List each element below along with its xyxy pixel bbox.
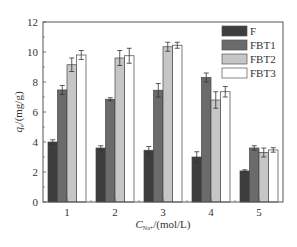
y-tick-label: 2 [33,166,39,178]
y-tick-label: 4 [33,136,39,148]
bar-fbt2-5 [259,153,269,203]
legend-swatch-f [222,26,247,36]
bar-fbt1-5 [250,148,260,202]
bar-fbt1-4 [202,78,212,203]
bar-fbt3-1 [77,55,87,202]
x-tick-label: 5 [256,206,262,218]
legend-label-fbt3: FBT3 [250,67,276,79]
y-tick-label: 12 [27,16,38,28]
y-axis-title: qe/(mg/g) [12,91,25,133]
bar-f-2 [96,148,106,202]
legend-label-fbt1: FBT1 [250,39,276,51]
x-tick-label: 3 [160,206,166,218]
legend-swatch-fbt2 [222,54,247,64]
legend-swatch-fbt1 [222,40,247,50]
bar-fbt2-2 [115,58,125,202]
bar-chart: 024681012 12345 CNa+/(mol/L) qe/(mg/g) F… [0,0,297,247]
bar-fbt1-3 [154,90,164,202]
x-axis-title: CNa+/(mol/L) [135,218,190,231]
bar-fbt3-5 [269,150,279,202]
x-tick-label: 4 [208,206,214,218]
bar-fbt1-2 [106,99,116,202]
bar-f-4 [192,157,202,202]
legend-label-f: F [250,25,256,37]
x-tick-label: 1 [64,206,70,218]
bar-fbt2-1 [67,65,77,202]
bar-f-5 [240,171,250,202]
bar-f-3 [144,150,154,202]
y-tick-label: 10 [27,46,39,58]
legend-swatch-fbt3 [222,68,247,78]
bar-fbt3-3 [173,45,183,202]
bar-fbt3-4 [221,92,231,202]
y-tick-label: 0 [33,196,39,208]
x-tick-label: 2 [112,206,118,218]
bar-fbt1-1 [58,90,68,202]
bar-fbt2-3 [163,47,173,202]
legend-label-fbt2: FBT2 [250,53,276,65]
y-tick-label: 6 [33,106,39,118]
bar-fbt3-2 [125,56,135,202]
y-tick-label: 8 [33,76,39,88]
legend: FFBT1FBT2FBT3 [222,25,276,79]
bar-f-1 [48,142,58,202]
bar-fbt2-4 [211,100,221,202]
